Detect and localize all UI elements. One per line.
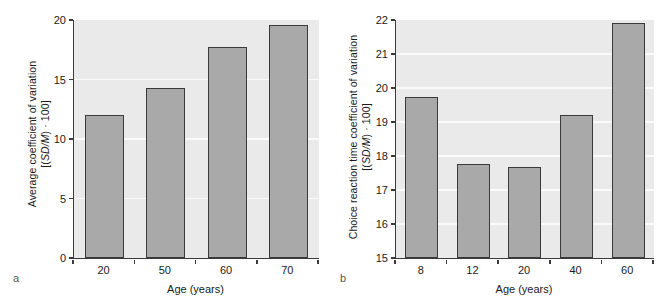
y-tick-label: 10: [54, 133, 66, 145]
y-tick-label: 15: [54, 74, 66, 86]
bar-60: [208, 47, 247, 258]
y-axis-title-a: Average coefficient of variation [(SD/M)…: [26, 18, 51, 250]
y-tick-label: 20: [376, 82, 388, 94]
bar-40: [560, 115, 593, 258]
y-axis-title-b-line2-post: ) · 100]: [360, 103, 372, 137]
y-tick-mark: [391, 155, 395, 157]
panel-letter-b: b: [340, 272, 346, 284]
bar-70: [269, 25, 308, 258]
figure-bar-charts: Average coefficient of variation [(SD/M)…: [0, 0, 666, 308]
x-tick-mark: [394, 260, 396, 264]
x-tick-mark: [497, 260, 499, 264]
bar-group-b: [396, 20, 654, 258]
y-tick-mark: [391, 223, 395, 225]
bar-50: [146, 88, 185, 258]
y-tick-label: 5: [60, 193, 66, 205]
y-axis-title-b-line2-pre: [(: [360, 164, 372, 171]
y-axis-title-a-line2-pre: [(: [39, 161, 51, 168]
y-tick-label: 17: [376, 184, 388, 196]
x-tick-mark: [601, 260, 603, 264]
bar-group-a: [74, 20, 319, 258]
y-tick-mark: [69, 19, 73, 21]
x-tick-mark: [195, 260, 197, 264]
panel-b: Choice reaction time coefficient of vari…: [333, 0, 666, 308]
x-tick-mark: [72, 260, 74, 264]
y-axis-title-b-line2: [(SD/M) · 100]: [360, 12, 373, 262]
y-axis-title-a-line1: Average coefficient of variation: [26, 61, 38, 207]
y-tick-mark: [391, 87, 395, 89]
x-tick-label: 70: [281, 264, 293, 276]
y-tick-label: 18: [376, 150, 388, 162]
y-tick-mark: [69, 79, 73, 81]
y-tick-label: 16: [376, 218, 388, 230]
x-tick-label: 20: [98, 264, 110, 276]
y-tick-label: 22: [376, 14, 388, 26]
y-axis-title-b: Choice reaction time coefficient of vari…: [347, 12, 372, 262]
x-tick-label: 40: [569, 264, 581, 276]
x-tick-mark: [256, 260, 258, 264]
x-tick-mark: [652, 260, 654, 264]
y-tick-mark: [69, 198, 73, 200]
bar-20: [508, 167, 541, 258]
x-tick-mark: [317, 260, 319, 264]
y-axis-title-a-line2-italic: SD/M: [39, 134, 51, 161]
y-axis-title-a-line2: [(SD/M) · 100]: [39, 18, 52, 250]
y-tick-label: 20: [54, 14, 66, 26]
x-tick-label: 20: [518, 264, 530, 276]
x-tick-label: 12: [466, 264, 478, 276]
y-axis-title-b-line2-italic: SD/M: [360, 137, 372, 164]
panel-a: Average coefficient of variation [(SD/M)…: [0, 0, 333, 308]
x-axis-title-a: Age (years): [73, 283, 318, 295]
panel-letter-a: a: [13, 272, 19, 284]
y-tick-label: 0: [60, 252, 66, 264]
x-tick-mark: [549, 260, 551, 264]
bar-8: [405, 97, 438, 259]
x-tick-label: 50: [159, 264, 171, 276]
y-axis-title-b-line1: Choice reaction time coefficient of vari…: [347, 35, 359, 240]
y-tick-label: 19: [376, 116, 388, 128]
x-tick-label: 60: [621, 264, 633, 276]
y-tick-label: 21: [376, 48, 388, 60]
y-tick-mark: [391, 189, 395, 191]
x-tick-label: 8: [418, 264, 424, 276]
plot-area-b: [395, 20, 654, 259]
y-tick-mark: [391, 121, 395, 123]
plot-area-a: [73, 20, 319, 259]
bar-60: [612, 23, 645, 258]
y-tick-mark: [391, 19, 395, 21]
y-tick-mark: [391, 53, 395, 55]
x-tick-mark: [134, 260, 136, 264]
bar-12: [457, 164, 490, 258]
y-tick-mark: [69, 138, 73, 140]
y-axis-title-a-line2-post: ) · 100]: [39, 100, 51, 134]
x-tick-label: 60: [220, 264, 232, 276]
bar-20: [85, 115, 124, 258]
x-tick-mark: [446, 260, 448, 264]
x-axis-title-b: Age (years): [395, 283, 653, 295]
y-tick-label: 15: [376, 252, 388, 264]
